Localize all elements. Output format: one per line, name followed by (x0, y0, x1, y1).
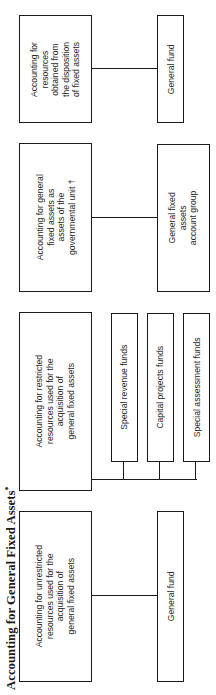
fund-label-special-assessment: Special assessment funds (191, 338, 202, 438)
connector-disposition (91, 68, 157, 69)
connector-governmental-unit (91, 217, 157, 218)
purpose-label-governmental-unit: Accounting for general fixed assets as a… (34, 175, 76, 261)
connector-riser-special-assessment (195, 461, 196, 480)
connector-restricted-bus (91, 479, 197, 480)
title-footnote-mark: * (4, 486, 13, 490)
fund-box-special-assessment: Special assessment funds (183, 313, 210, 462)
connector-unrestricted (91, 595, 157, 596)
purpose-box-unrestricted: Accounting for unrestricted resources us… (19, 511, 92, 682)
fund-label-general-fixed-assets-account-group: General fixed assets account group (168, 191, 200, 245)
purpose-box-disposition: Accounting for resources obtained from t… (19, 15, 92, 123)
purpose-label-disposition: Accounting for resources obtained from t… (29, 42, 82, 97)
fund-label-general-fund-disposition: General fund (165, 44, 176, 94)
fund-box-special-revenue: Special revenue funds (111, 313, 138, 462)
fund-label-special-revenue: Special revenue funds (119, 345, 130, 430)
purpose-label-restricted: Accounting for restricted resources used… (34, 355, 76, 448)
purpose-label-unrestricted: Accounting for unrestricted resources us… (34, 545, 76, 647)
fund-box-general-fund-disposition: General fund (157, 15, 184, 123)
fund-label-capital-projects: Capital projects funds (155, 346, 166, 429)
title-text: Accounting for General Fixed Assets (4, 490, 18, 690)
fund-label-general-fund-unrestricted: General fund (165, 572, 176, 622)
purpose-box-restricted: Accounting for restricted resources used… (19, 312, 92, 491)
fund-box-general-fixed-assets-account-group: General fixed assets account group (157, 144, 210, 292)
connector-riser-special-revenue (123, 461, 124, 480)
purpose-box-governmental-unit: Accounting for general fixed assets as a… (19, 143, 92, 292)
connector-riser-capital-projects (159, 461, 160, 480)
fund-box-capital-projects: Capital projects funds (147, 313, 174, 462)
fund-box-general-fund-unrestricted: General fund (157, 511, 184, 682)
diagram-title: Accounting for General Fixed Assets* (3, 486, 19, 690)
